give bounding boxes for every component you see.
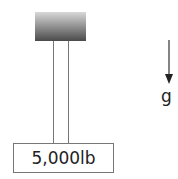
rope-left: [53, 41, 54, 143]
rope-right: [68, 41, 69, 143]
weight-label: 5,000lb: [31, 148, 95, 168]
gravity-label: g: [161, 86, 172, 106]
ceiling-support-block: [35, 12, 86, 41]
gravity-arrow-icon: [160, 40, 178, 86]
weight-box: 5,000lb: [13, 143, 114, 173]
